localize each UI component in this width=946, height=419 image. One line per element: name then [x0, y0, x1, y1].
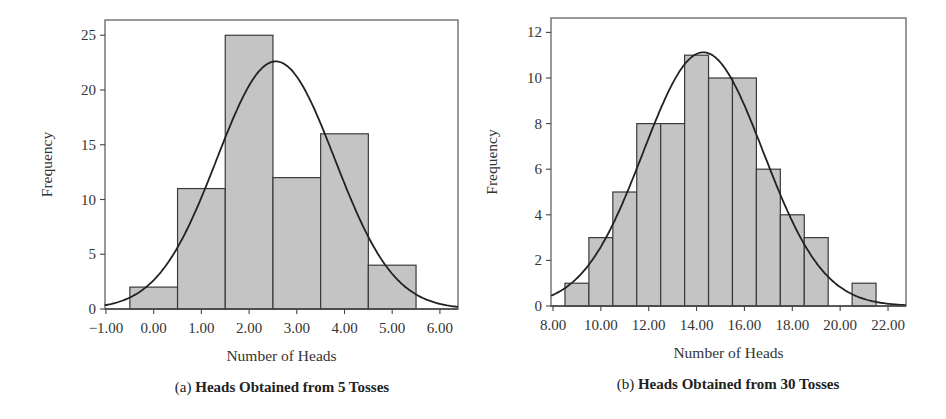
histogram-30-tosses: 8.0010.0012.0014.0016.0018.0020.0022.000…	[483, 18, 906, 393]
x-tick-label: 10.00	[584, 317, 618, 333]
histogram-bar	[273, 178, 321, 309]
x-tick-label: 22.00	[871, 317, 905, 333]
x-tick-label: 6.00	[427, 320, 453, 336]
y-tick-label: 5	[89, 246, 97, 262]
bars	[130, 35, 416, 309]
y-ticks: 024681012	[527, 24, 551, 314]
y-tick-label: 12	[527, 24, 542, 40]
x-tick-label: 20.00	[823, 317, 857, 333]
histogram-bar	[178, 189, 226, 309]
y-tick-label: 0	[535, 298, 543, 314]
caption-prefix: (a)	[175, 379, 195, 396]
y-tick-label: 6	[535, 161, 543, 177]
histogram-bar	[685, 55, 709, 306]
x-tick-label: 5.00	[379, 320, 405, 336]
y-tick-label: 25	[81, 27, 96, 43]
histogram-5-tosses: −1.000.001.002.003.004.005.006.000510152…	[38, 20, 458, 396]
x-tick-label: −1.00	[89, 320, 124, 336]
histogram-bar	[637, 124, 661, 306]
y-tick-label: 2	[535, 252, 543, 268]
y-ticks: 0510152025	[81, 27, 105, 317]
histogram-bar	[661, 124, 685, 306]
x-tick-label: 4.00	[331, 320, 357, 336]
histogram-bar	[852, 283, 876, 306]
y-tick-label: 4	[535, 207, 543, 223]
histogram-bar	[613, 192, 637, 306]
x-ticks: −1.000.001.002.003.004.005.006.00	[89, 309, 453, 336]
histogram-bar	[709, 78, 733, 306]
y-tick-label: 0	[89, 301, 97, 317]
x-tick-label: 1.00	[188, 320, 214, 336]
y-tick-label: 10	[81, 192, 96, 208]
caption-title: Heads Obtained from 5 Tosses	[195, 379, 389, 395]
y-tick-label: 15	[81, 137, 96, 153]
caption-title: Heads Obtained from 30 Tosses	[638, 376, 840, 392]
y-tick-label: 8	[535, 116, 543, 132]
chart-caption: (a) Heads Obtained from 5 Tosses	[175, 379, 389, 396]
y-tick-label: 20	[81, 82, 96, 98]
x-tick-label: 16.00	[728, 317, 762, 333]
x-tick-label: 14.00	[680, 317, 714, 333]
histogram-bar	[130, 287, 178, 309]
x-tick-label: 8.00	[540, 317, 566, 333]
x-tick-label: 3.00	[284, 320, 310, 336]
y-tick-label: 10	[527, 70, 542, 86]
histogram-bar	[225, 35, 273, 309]
histogram-bar	[780, 215, 804, 306]
bars	[565, 55, 876, 306]
x-axis-label: Number of Heads	[226, 347, 336, 364]
chart-caption: (b) Heads Obtained from 30 Tosses	[617, 376, 840, 393]
x-tick-label: 0.00	[141, 320, 167, 336]
histogram-bar	[756, 169, 780, 306]
x-ticks: 8.0010.0012.0014.0016.0018.0020.0022.00	[540, 306, 905, 333]
x-tick-label: 2.00	[236, 320, 262, 336]
x-axis-label: Number of Heads	[673, 344, 783, 361]
histogram-bar	[732, 78, 756, 306]
y-axis-label: Frequency	[38, 132, 55, 198]
y-axis-label: Frequency	[483, 129, 500, 195]
x-tick-label: 18.00	[775, 317, 809, 333]
caption-prefix: (b)	[617, 376, 638, 393]
figure: −1.000.001.002.003.004.005.006.000510152…	[0, 0, 946, 419]
x-tick-label: 12.00	[632, 317, 666, 333]
histogram-bar	[368, 265, 416, 309]
